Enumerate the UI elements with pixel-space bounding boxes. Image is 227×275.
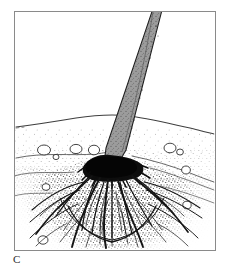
root-crown-core xyxy=(86,157,138,178)
soil-stipple-overlay xyxy=(38,192,186,252)
pebble xyxy=(53,154,59,159)
pebble xyxy=(42,184,50,191)
pebble xyxy=(88,145,99,155)
botanical-illustration xyxy=(0,0,227,275)
pebble xyxy=(164,143,176,153)
pebble xyxy=(182,166,191,174)
panel-label: C xyxy=(13,254,21,265)
pebble xyxy=(38,145,51,155)
pebble xyxy=(183,201,191,209)
figure-panel: C xyxy=(0,0,227,275)
pebble xyxy=(70,144,82,153)
pebble xyxy=(177,149,184,155)
